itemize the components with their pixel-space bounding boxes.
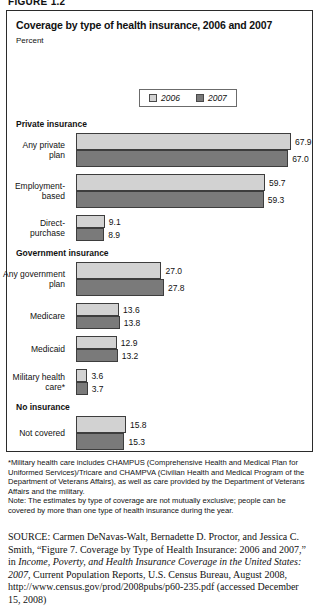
bar-row: 9.1 (76, 215, 121, 228)
bar-row: 27.8 (76, 279, 185, 296)
bar-2006 (76, 369, 87, 382)
bar-2007 (76, 228, 104, 241)
bar-value-label: 59.3 (268, 195, 285, 205)
bar-2007 (76, 150, 288, 167)
category-label: Medicaid (0, 344, 65, 354)
bar-stack: 13.613.8 (76, 303, 140, 329)
source-keyword: SOURCE: (8, 531, 50, 542)
bar-value-label: 67.9 (295, 137, 312, 147)
category-label: Any government plan (0, 269, 65, 289)
source-part-2: , Current Population Reports, U.S. Censu… (8, 569, 299, 605)
bar-row: 13.8 (76, 316, 140, 329)
bar-group: Not covered15.815.3 (7, 416, 312, 450)
bar-value-label: 9.1 (109, 217, 121, 227)
bar-value-label: 12.9 (121, 338, 138, 348)
bar-value-label: 67.0 (292, 154, 309, 164)
category-label: Not covered (0, 428, 65, 438)
bar-row: 12.9 (76, 336, 138, 349)
bar-group: Any private plan67.967.0 (7, 133, 312, 167)
legend-label-2006: 2006 (161, 93, 180, 103)
category-label: Employment- based (0, 181, 65, 201)
bar-row: 15.3 (76, 433, 147, 450)
bar-value-label: 3.7 (92, 384, 104, 394)
bar-group: Medicare13.613.8 (7, 303, 312, 329)
bar-2007 (76, 382, 88, 395)
bar-row: 27.0 (76, 262, 185, 279)
bar-value-label: 13.8 (124, 318, 141, 328)
bar-group: Military health care*3.63.7 (7, 369, 312, 395)
chart-title: Coverage by type of health insurance, 20… (16, 19, 272, 31)
bar-2006 (76, 133, 291, 150)
legend-swatch-icon-2006 (149, 94, 157, 102)
bar-value-label: 15.3 (128, 437, 145, 447)
legend-item-2006: 2006 (149, 93, 180, 103)
bar-row: 8.9 (76, 228, 121, 241)
bar-2006 (76, 215, 105, 228)
bar-2006 (76, 303, 119, 316)
category-label: Any private plan (0, 140, 65, 160)
bar-group: Any government plan27.027.8 (7, 262, 312, 296)
bar-value-label: 8.9 (108, 230, 120, 240)
bar-stack: 12.913.2 (76, 336, 138, 362)
bar-row: 59.3 (76, 191, 286, 208)
bar-2006 (76, 336, 117, 349)
bar-group: Direct- purchase9.18.9 (7, 215, 312, 241)
bar-stack: 59.759.3 (76, 174, 286, 208)
bar-row: 67.0 (76, 150, 312, 167)
legend-item-2007: 2007 (196, 93, 227, 103)
note-text: Note: The estimates by type of coverage … (8, 496, 312, 515)
bar-value-label: 15.8 (130, 420, 147, 430)
legend-swatch-icon-2007 (196, 94, 204, 102)
axis-unit-label: Percent (16, 36, 44, 45)
bar-row: 13.6 (76, 303, 140, 316)
bar-2006 (76, 416, 126, 433)
bar-row: 3.6 (76, 369, 104, 382)
bar-2007 (76, 433, 124, 450)
source-citation: SOURCE: Carmen DeNavas-Walt, Bernadette … (8, 531, 312, 607)
bar-2006 (76, 262, 161, 279)
bar-2007 (76, 349, 118, 362)
footnote-text: *Military health care includes CHAMPUS (… (8, 458, 312, 496)
bar-value-label: 27.0 (165, 266, 182, 276)
bar-stack: 9.18.9 (76, 215, 121, 241)
category-label: Direct- purchase (0, 218, 65, 238)
figure-number-label: FIGURE 1.2 (8, 0, 65, 7)
chart-notes: *Military health care includes CHAMPUS (… (8, 458, 312, 516)
bar-group: Medicaid12.913.2 (7, 336, 312, 362)
legend-label-2007: 2007 (208, 93, 227, 103)
chart-frame: Coverage by type of health insurance, 20… (6, 10, 313, 452)
bar-stack: 67.967.0 (76, 133, 312, 167)
bar-value-label: 13.6 (123, 305, 140, 315)
bar-value-label: 59.7 (269, 178, 286, 188)
bar-2007 (76, 316, 120, 329)
bar-row: 67.9 (76, 133, 312, 150)
bar-value-label: 27.8 (168, 283, 185, 293)
chart-legend: 2006 2007 (139, 89, 237, 107)
bar-2007 (76, 279, 164, 296)
bar-2007 (76, 191, 264, 208)
section-heading: No insurance (16, 402, 312, 412)
category-label: Medicare (0, 311, 65, 321)
category-label: Military health care* (0, 372, 65, 392)
bar-row: 13.2 (76, 349, 138, 362)
bar-value-label: 3.6 (91, 371, 103, 381)
bar-stack: 3.63.7 (76, 369, 104, 395)
bar-row: 59.7 (76, 174, 286, 191)
bar-stack: 27.027.8 (76, 262, 185, 296)
bar-value-label: 13.2 (122, 351, 139, 361)
bar-stack: 15.815.3 (76, 416, 147, 450)
plot-area: Private insuranceAny private plan67.967.… (7, 119, 312, 457)
bar-2006 (76, 174, 265, 191)
bar-row: 3.7 (76, 382, 104, 395)
section-heading: Government insurance (16, 248, 312, 258)
bar-row: 15.8 (76, 416, 147, 433)
section-heading: Private insurance (16, 119, 312, 129)
bar-group: Employment- based59.759.3 (7, 174, 312, 208)
